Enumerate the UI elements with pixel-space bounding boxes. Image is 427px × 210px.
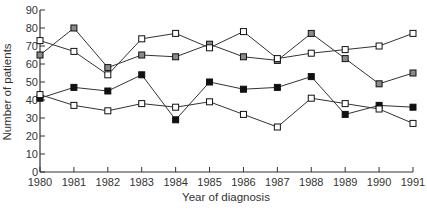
data-point-marker <box>274 56 280 62</box>
data-point-marker <box>207 79 213 85</box>
y-tick-label: 80 <box>26 22 38 34</box>
series-1 <box>37 25 416 87</box>
data-point-marker <box>173 54 179 60</box>
data-point-marker <box>173 117 179 123</box>
data-point-marker <box>105 88 111 94</box>
x-tick-label: 1980 <box>28 176 52 188</box>
data-point-marker <box>308 95 314 101</box>
x-tick-label: 1982 <box>96 176 120 188</box>
x-tick-label: 1986 <box>231 176 255 188</box>
x-tick-label: 1990 <box>367 176 391 188</box>
series-3 <box>37 72 416 123</box>
x-axis: 1980198119821983198419851986198719881989… <box>28 167 425 188</box>
data-point-marker <box>37 52 43 58</box>
line-chart: 0102030405060708090 19801981198219831984… <box>0 0 427 210</box>
x-tick-label: 1987 <box>265 176 289 188</box>
data-point-marker <box>410 120 416 126</box>
data-point-marker <box>71 102 77 108</box>
x-tick-label: 1981 <box>62 176 86 188</box>
data-point-marker <box>308 30 314 36</box>
y-tick-label: 20 <box>26 130 38 142</box>
x-tick-label: 1989 <box>333 176 357 188</box>
x-tick-label: 1988 <box>299 176 323 188</box>
data-point-marker <box>105 72 111 78</box>
series-line <box>40 75 413 120</box>
data-point-marker <box>342 111 348 117</box>
data-point-marker <box>139 52 145 58</box>
x-tick-label: 1991 <box>401 176 425 188</box>
data-point-marker <box>105 108 111 114</box>
data-point-marker <box>274 124 280 130</box>
y-tick-label: 90 <box>26 4 38 16</box>
data-point-marker <box>173 30 179 36</box>
data-point-marker <box>410 70 416 76</box>
data-point-marker <box>410 30 416 36</box>
y-tick-label: 30 <box>26 112 38 124</box>
data-point-marker <box>37 38 43 44</box>
x-tick-label: 1984 <box>163 176 187 188</box>
data-point-marker <box>342 101 348 107</box>
x-tick-label: 1985 <box>197 176 221 188</box>
y-tick-label: 50 <box>26 76 38 88</box>
data-point-marker <box>139 36 145 42</box>
series-layer <box>37 25 416 130</box>
data-point-marker <box>376 106 382 112</box>
data-point-marker <box>71 48 77 54</box>
data-point-marker <box>240 29 246 35</box>
data-point-marker <box>240 54 246 60</box>
data-point-marker <box>410 104 416 110</box>
y-tick-label: 40 <box>26 94 38 106</box>
data-point-marker <box>308 50 314 56</box>
series-line <box>40 28 413 84</box>
data-point-marker <box>37 92 43 98</box>
data-point-marker <box>207 99 213 105</box>
data-point-marker <box>139 72 145 78</box>
data-point-marker <box>240 86 246 92</box>
data-point-marker <box>342 56 348 62</box>
data-point-marker <box>376 43 382 49</box>
series-2 <box>37 29 416 78</box>
data-point-marker <box>342 47 348 53</box>
data-point-marker <box>71 25 77 31</box>
data-point-marker <box>139 101 145 107</box>
data-point-marker <box>308 74 314 80</box>
x-tick-label: 1983 <box>129 176 153 188</box>
data-point-marker <box>240 111 246 117</box>
data-point-marker <box>376 81 382 87</box>
y-tick-label: 70 <box>26 40 38 52</box>
x-axis-title: Year of diagnosis <box>182 191 270 203</box>
y-axis: 0102030405060708090 <box>26 4 45 178</box>
data-point-marker <box>207 45 213 51</box>
y-tick-label: 10 <box>26 148 38 160</box>
data-point-marker <box>274 84 280 90</box>
y-axis-title: Number of patients <box>1 43 13 140</box>
data-point-marker <box>105 65 111 71</box>
y-tick-label: 60 <box>26 58 38 70</box>
data-point-marker <box>173 104 179 110</box>
data-point-marker <box>71 84 77 90</box>
